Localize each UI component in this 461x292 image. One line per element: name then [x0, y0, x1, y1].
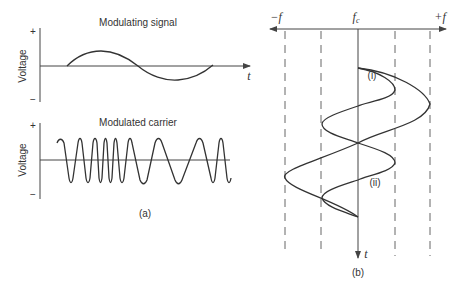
frequency-time-plot: −f fc +f t (i) (ii)	[270, 10, 447, 261]
minus-f-label: −f	[270, 10, 283, 24]
fm-diagram: Modulating signal Voltage + − t Modulate…	[0, 0, 461, 292]
time-axis-label: t	[247, 69, 251, 83]
modulated-carrier-curve	[57, 139, 231, 184]
top-plus-label: +	[30, 26, 36, 37]
curve-ii-label: (ii)	[369, 177, 380, 188]
modulating-signal-title: Modulating signal	[99, 17, 177, 28]
top-minus-label: −	[30, 94, 36, 105]
time-label-b: t	[364, 247, 368, 261]
bottom-voltage-label: Voltage	[17, 143, 28, 177]
fc-label: fc	[353, 10, 360, 25]
modulating-signal-plot: Modulating signal Voltage + − t	[17, 17, 251, 105]
modulated-carrier-plot: Modulated carrier Voltage + −	[17, 117, 231, 200]
curve-i-label: (i)	[368, 70, 377, 81]
modulated-carrier-title: Modulated carrier	[99, 117, 177, 128]
bottom-minus-label: −	[30, 189, 36, 200]
top-voltage-label: Voltage	[17, 49, 28, 83]
plus-f-label: +f	[434, 10, 447, 24]
caption-b: (b)	[352, 267, 364, 278]
caption-a: (a)	[139, 208, 151, 219]
bottom-plus-label: +	[30, 120, 36, 131]
